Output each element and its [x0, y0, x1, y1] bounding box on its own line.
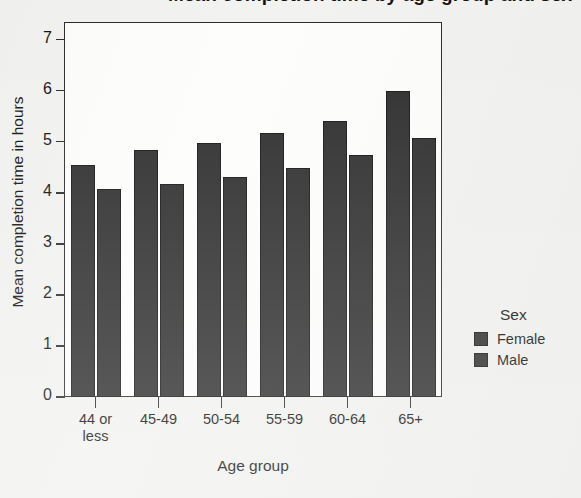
- bar-chart-figure: Mean completion time by age group and se…: [0, 0, 581, 498]
- x-tick-mark: [410, 397, 412, 408]
- x-tick-mark: [284, 397, 286, 408]
- x-tick-mark: [347, 397, 349, 408]
- bar: [386, 91, 410, 397]
- legend-swatch-icon: [474, 353, 488, 367]
- chart-title-text: Mean completion time by age group and se…: [168, 0, 572, 6]
- legend-swatch-icon: [474, 332, 488, 346]
- bar: [160, 184, 184, 397]
- y-tick-label: 7: [28, 29, 52, 47]
- bar: [260, 133, 284, 397]
- y-tick-label: 0: [28, 386, 52, 404]
- x-axis-title: Age group: [64, 457, 442, 475]
- y-tick-label: 6: [28, 80, 52, 98]
- legend-label: Female: [497, 331, 545, 347]
- y-axis-title: Mean completion time in hours: [9, 32, 27, 372]
- bar: [223, 177, 247, 397]
- legend-label: Male: [497, 352, 528, 368]
- y-tick-label: 4: [28, 182, 52, 200]
- legend-entry: Female: [474, 331, 578, 347]
- legend-entries: FemaleMale: [474, 331, 578, 368]
- bar: [286, 168, 310, 397]
- x-tick-mark: [221, 397, 223, 408]
- chart-title-cropped: Mean completion time by age group and se…: [0, 0, 581, 13]
- y-tick-label: 2: [28, 284, 52, 302]
- legend: Sex FemaleMale: [474, 306, 578, 373]
- y-tick-mark: [56, 192, 65, 194]
- y-tick-label: 1: [28, 335, 52, 353]
- legend-title: Sex: [500, 306, 578, 324]
- x-tick-label: 65+: [366, 411, 456, 428]
- bar: [323, 121, 347, 397]
- y-tick-label: 5: [28, 131, 52, 149]
- y-tick-mark: [56, 396, 65, 398]
- bar: [197, 143, 221, 397]
- y-tick-mark: [56, 90, 65, 92]
- bar: [412, 138, 436, 397]
- y-tick-mark: [56, 294, 65, 296]
- bar: [97, 189, 121, 397]
- y-tick-label: 3: [28, 233, 52, 251]
- x-tick-mark: [158, 397, 160, 408]
- bar: [134, 150, 158, 397]
- y-tick-mark: [56, 243, 65, 245]
- y-tick-mark: [56, 141, 65, 143]
- legend-entry: Male: [474, 352, 578, 368]
- y-tick-mark: [56, 39, 65, 41]
- bar: [71, 165, 95, 397]
- x-tick-mark: [95, 397, 97, 408]
- bar: [349, 155, 373, 397]
- y-tick-mark: [56, 345, 65, 347]
